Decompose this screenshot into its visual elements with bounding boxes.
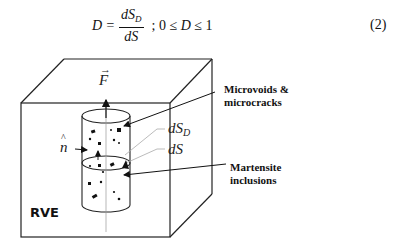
dSD-label: dSD (168, 120, 190, 138)
inclusions (88, 128, 121, 200)
section-arrowhead (122, 160, 129, 169)
rve-diagram (0, 0, 404, 249)
voids-callout-label: Microvoids & microcracks (224, 83, 289, 109)
martensite-callout-arrow (124, 164, 226, 175)
force-label: →F (99, 72, 108, 89)
normal-callout-arrow (75, 149, 87, 150)
martensite-callout-label: Martensite inclusions (230, 161, 281, 187)
dS-label: dS (168, 141, 183, 158)
dSD-leader (125, 129, 165, 155)
rve-label: RVE (30, 205, 59, 220)
dS-leader (126, 149, 165, 163)
normal-label: ^n (60, 139, 68, 156)
